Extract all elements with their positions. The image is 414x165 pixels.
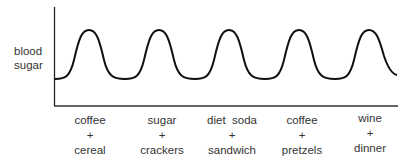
- x-label-plus: +: [122, 128, 202, 143]
- x-label-1: coffee + cereal: [50, 113, 130, 158]
- x-label-plus: +: [330, 126, 410, 141]
- blood-sugar-curve: [55, 30, 397, 79]
- x-label-5: wine + dinner: [330, 111, 410, 156]
- x-label-top: sugar: [122, 113, 202, 128]
- x-label-top: wine: [330, 111, 410, 126]
- x-label-bottom: dinner: [330, 141, 410, 156]
- y-axis-label: blood sugar: [14, 44, 43, 72]
- x-label-bottom: crackers: [122, 143, 202, 158]
- x-label-2: sugar + crackers: [122, 113, 202, 158]
- x-label-bottom: cereal: [50, 143, 130, 158]
- x-label-plus: +: [192, 128, 272, 143]
- y-label-line2: sugar: [14, 58, 43, 72]
- y-label-line1: blood: [14, 44, 43, 58]
- x-label-top: coffee: [50, 113, 130, 128]
- x-label-top: diet soda: [192, 113, 272, 128]
- x-label-3: diet soda + sandwich: [192, 113, 272, 158]
- x-label-plus: +: [50, 128, 130, 143]
- x-label-bottom: sandwich: [192, 143, 272, 158]
